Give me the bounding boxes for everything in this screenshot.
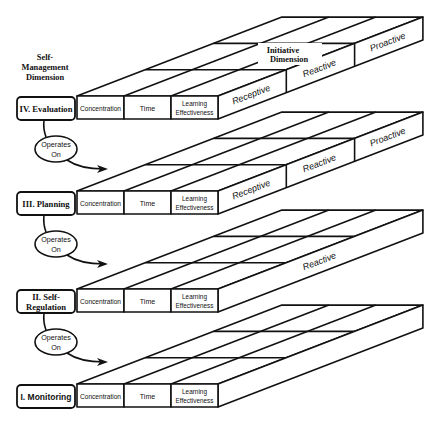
- level-label-1: IV. Evaluation: [17, 97, 75, 120]
- svg-text:On: On: [51, 245, 61, 254]
- self-management-dimension-title: Self-ManagementDimension: [22, 53, 69, 82]
- svg-text:Effectiveness: Effectiveness: [176, 204, 214, 211]
- svg-text:III. Planning: III. Planning: [22, 199, 70, 209]
- level-slab-4: ConcentrationTimeLearningEffectiveness: [77, 305, 423, 407]
- level-label-4: I. Monitoring: [17, 385, 75, 408]
- operates-on-connector-2: OperatesOn: [35, 215, 108, 268]
- svg-text:Concentration: Concentration: [80, 298, 121, 305]
- initiative-dimension-title: InitiativeDimension: [258, 43, 322, 65]
- svg-text:IV. Evaluation: IV. Evaluation: [20, 104, 73, 114]
- level-label-3: II. Self-Regulation: [17, 290, 75, 313]
- svg-text:Initiative: Initiative: [267, 46, 300, 55]
- svg-text:Management: Management: [22, 63, 69, 72]
- svg-text:Operates: Operates: [41, 333, 71, 342]
- svg-text:On: On: [51, 343, 61, 352]
- operates-on-connector-1: OperatesOn: [35, 120, 108, 173]
- svg-text:Learning: Learning: [182, 388, 207, 396]
- svg-text:Operates: Operates: [41, 140, 71, 149]
- svg-text:Time: Time: [140, 393, 155, 400]
- operates-on-connector-3: OperatesOn: [35, 313, 108, 366]
- self-management-initiative-diagram: ReceptiveReactiveProactiveConcentrationT…: [0, 0, 441, 426]
- svg-text:I. Monitoring: I. Monitoring: [21, 392, 72, 402]
- svg-text:Time: Time: [140, 298, 155, 305]
- svg-text:Self-: Self-: [37, 53, 53, 62]
- svg-text:On: On: [51, 150, 61, 159]
- svg-text:Concentration: Concentration: [80, 393, 121, 400]
- svg-text:Regulation: Regulation: [26, 302, 66, 312]
- level-slab-2: ReceptiveReactiveProactiveConcentrationT…: [77, 112, 423, 214]
- svg-text:Effectiveness: Effectiveness: [176, 397, 214, 404]
- svg-text:Learning: Learning: [182, 195, 207, 203]
- svg-text:II. Self-: II. Self-: [32, 292, 60, 302]
- svg-text:Time: Time: [140, 105, 155, 112]
- level-slab-3: ReactiveConcentrationTimeLearningEffecti…: [77, 210, 423, 312]
- svg-text:Operates: Operates: [41, 235, 71, 244]
- svg-text:Concentration: Concentration: [80, 200, 121, 207]
- svg-text:Effectiveness: Effectiveness: [176, 109, 214, 116]
- svg-text:Learning: Learning: [182, 293, 207, 301]
- svg-text:Concentration: Concentration: [80, 105, 121, 112]
- svg-text:Dimension: Dimension: [26, 73, 65, 82]
- level-label-2: III. Planning: [17, 192, 75, 215]
- level-slab-1: ReceptiveReactiveProactiveConcentrationT…: [77, 17, 423, 119]
- svg-text:Effectiveness: Effectiveness: [176, 302, 214, 309]
- svg-text:Time: Time: [140, 200, 155, 207]
- svg-text:Learning: Learning: [182, 100, 207, 108]
- svg-text:Dimension: Dimension: [270, 55, 309, 64]
